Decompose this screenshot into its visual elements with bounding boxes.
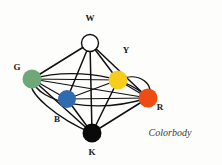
node-label-green: G [13,62,20,72]
node-yellow[interactable] [109,71,128,90]
colorbody-diagram-figure: WGYBRK Colorbody [0,0,222,165]
node-green[interactable] [23,70,42,89]
node-label-white: W [86,13,95,23]
figure-caption: Colorbody [149,127,192,138]
edges-layer [32,43,148,133]
node-white[interactable] [82,35,99,52]
node-label-red: R [157,102,164,112]
node-black[interactable] [83,124,102,143]
node-blue[interactable] [58,90,76,108]
node-label-blue: B [54,114,60,124]
colorbody-diagram-canvas: WGYBRK Colorbody [0,0,222,165]
node-label-yellow: Y [123,45,130,55]
outer-curve-equator-front [32,79,148,106]
node-red[interactable] [139,89,158,108]
node-label-black: K [88,147,95,157]
edge-g-y [32,79,118,80]
edge-b-r [67,98,148,99]
